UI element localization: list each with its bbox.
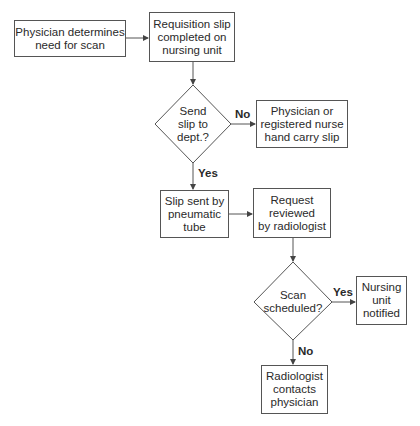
send-decision-text-wrap: Send slip to dept.? xyxy=(163,100,223,148)
node-contacts-text: Radiologist contacts physician xyxy=(266,370,323,409)
node-start: Physician determines need for scan xyxy=(14,20,126,57)
scan-decision-text: Scan scheduled? xyxy=(264,289,323,315)
node-pneumatic-text: Slip sent by pneumatic tube xyxy=(165,195,224,234)
edge-label-send-no: No xyxy=(235,108,250,120)
node-requisition: Requisition slip completed on nursing un… xyxy=(149,12,235,62)
node-contacts: Radiologist contacts physician xyxy=(261,365,328,414)
edge-label-scan-no: No xyxy=(298,345,313,357)
edge-label-send-yes: Yes xyxy=(198,167,218,179)
node-review: Request reviewed by radiologist xyxy=(253,188,331,238)
node-start-text: Physician determines need for scan xyxy=(15,26,124,52)
node-requisition-text: Requisition slip completed on nursing un… xyxy=(153,18,230,57)
scan-decision-text-wrap: Scan scheduled? xyxy=(258,287,328,317)
node-hand-carry-text: Physician or registered nurse hand carry… xyxy=(260,105,343,144)
node-notified: Nursing unit notified xyxy=(356,276,407,325)
send-decision-text: Send slip to dept.? xyxy=(177,105,209,144)
edge-label-scan-yes: Yes xyxy=(333,286,353,298)
node-review-text: Request reviewed by radiologist xyxy=(258,194,326,233)
node-pneumatic: Slip sent by pneumatic tube xyxy=(160,190,229,238)
node-hand-carry: Physician or registered nurse hand carry… xyxy=(256,100,348,148)
node-notified-text: Nursing unit notified xyxy=(362,281,402,320)
